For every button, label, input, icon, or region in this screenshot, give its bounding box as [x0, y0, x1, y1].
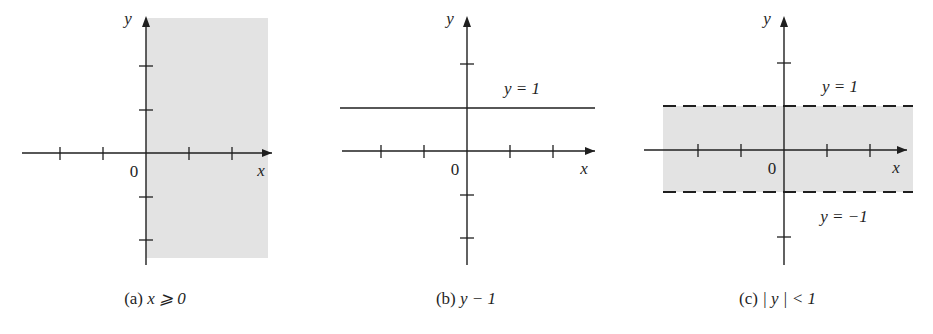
origin-label-a: 0: [130, 162, 139, 181]
x-axis-label-a: x: [256, 161, 265, 180]
line-label-y-equals-minus-1-c: y = −1: [818, 207, 868, 226]
caption-a: (a) x ⩾ 0: [0, 288, 310, 310]
panel-a-plot: y x 0: [0, 0, 310, 285]
caption-c-label: (c): [739, 289, 758, 308]
panel-b-plot: y x 0 y = 1: [310, 0, 622, 285]
panel-a-svg: y x 0: [0, 0, 310, 285]
y-axis-label-a: y: [122, 9, 132, 28]
x-axis-label-c: x: [891, 158, 900, 177]
panel-c-plot: y x 0 y = 1 y = −1: [622, 0, 933, 285]
panel-a: y x 0 (a) x ⩾ 0: [0, 0, 310, 334]
panel-b-svg: y x 0 y = 1: [310, 0, 622, 285]
shaded-region-c: [663, 106, 913, 192]
panel-c: y x 0 y = 1 y = −1 (c) | y | < 1: [622, 0, 933, 334]
x-axis-arrowhead-b: [585, 147, 595, 155]
panel-b: y x 0 y = 1 (b) y − 1: [310, 0, 622, 334]
figure-root: y x 0 (a) x ⩾ 0: [0, 0, 933, 334]
caption-b-label: (b): [436, 289, 456, 308]
y-axis-arrowhead-b: [463, 16, 471, 27]
y-axis-label-c: y: [761, 9, 771, 28]
caption-a-expr: x ⩾ 0: [147, 289, 186, 308]
caption-b: (b) y − 1: [310, 288, 622, 310]
panel-c-svg: y x 0 y = 1 y = −1: [622, 0, 933, 285]
shaded-region-a: [146, 18, 268, 258]
caption-a-label: (a): [124, 289, 143, 308]
x-axis-label-b: x: [579, 159, 588, 178]
origin-label-c: 0: [768, 159, 777, 178]
caption-b-expr: y − 1: [460, 289, 496, 308]
caption-c: (c) | y | < 1: [622, 288, 933, 310]
caption-c-expr: | y | < 1: [762, 289, 816, 308]
y-axis-arrowhead-c: [780, 16, 788, 27]
origin-label-b: 0: [451, 160, 460, 179]
line-label-y-equals-1-c: y = 1: [820, 77, 858, 96]
y-axis-label-b: y: [444, 9, 454, 28]
line-label-y-equals-1-b: y = 1: [502, 79, 540, 98]
